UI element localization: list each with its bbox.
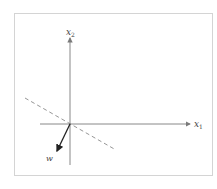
diagram-canvas: x2 x1 w: [0, 0, 217, 189]
x1-axis-label: x1: [194, 119, 203, 130]
x2-axis-label: x2: [66, 27, 75, 38]
w-vector-label: w: [46, 154, 53, 163]
w-vector-arrow: [57, 124, 70, 151]
